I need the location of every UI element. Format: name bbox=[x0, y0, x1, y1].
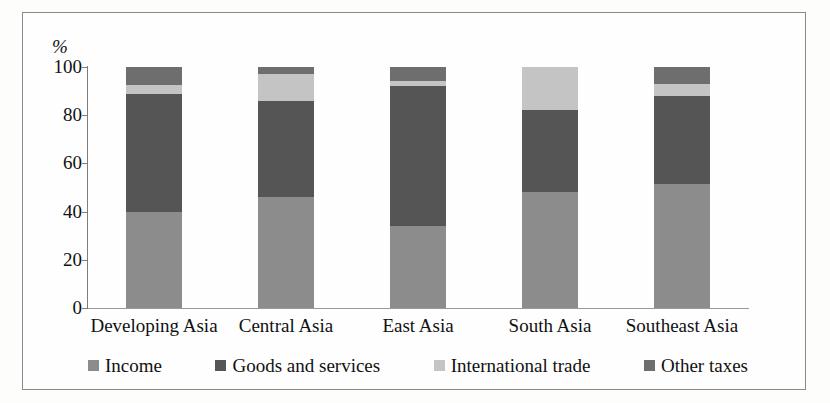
y-tick-label: 100 bbox=[22, 57, 82, 76]
chart-figure: % 100806040200 Developing AsiaCentral As… bbox=[0, 0, 830, 403]
y-tick-label-text: 100 bbox=[38, 57, 82, 76]
legend-item[interactable]: Goods and services bbox=[215, 355, 380, 376]
y-tick-label: 40 bbox=[22, 202, 82, 221]
bar-segment[interactable] bbox=[654, 84, 710, 96]
bar-segment[interactable] bbox=[522, 192, 578, 308]
bar-segment[interactable] bbox=[390, 226, 446, 308]
y-tick-label: 60 bbox=[22, 153, 82, 172]
legend-item-label: Other taxes bbox=[661, 355, 748, 376]
bar-group: Central Asia bbox=[220, 67, 352, 308]
y-tick-label-text: 80 bbox=[38, 105, 82, 124]
bar-group: South Asia bbox=[484, 67, 616, 308]
legend-item[interactable]: Other taxes bbox=[644, 355, 748, 376]
bar-segment[interactable] bbox=[390, 86, 446, 226]
bar-group: Southeast Asia bbox=[616, 67, 748, 308]
y-tick-label-text: 40 bbox=[38, 202, 82, 221]
stacked-bar[interactable] bbox=[390, 67, 446, 308]
bar-segment[interactable] bbox=[654, 96, 710, 184]
bar-segment[interactable] bbox=[258, 197, 314, 308]
y-tick-mark bbox=[82, 308, 88, 309]
y-tick-label-text: 60 bbox=[38, 153, 82, 172]
bar-segment[interactable] bbox=[654, 67, 710, 84]
legend-item[interactable]: International trade bbox=[434, 355, 591, 376]
bar-group: East Asia bbox=[352, 67, 484, 308]
bar-segment[interactable] bbox=[126, 94, 182, 212]
legend-item-label: Income bbox=[105, 355, 162, 376]
y-axis-unit-label: % bbox=[52, 36, 68, 58]
y-tick-label: 20 bbox=[22, 250, 82, 269]
y-tick-label-text: 20 bbox=[38, 250, 82, 269]
bar-segment[interactable] bbox=[126, 67, 182, 85]
x-axis-line bbox=[87, 308, 749, 309]
bar-segment[interactable] bbox=[390, 67, 446, 81]
stacked-bar[interactable] bbox=[258, 67, 314, 308]
y-tick-label: 80 bbox=[22, 105, 82, 124]
legend-item-label: Goods and services bbox=[232, 355, 380, 376]
legend-item[interactable]: Income bbox=[88, 355, 162, 376]
legend-swatch-icon bbox=[644, 360, 655, 371]
legend-swatch-icon bbox=[88, 360, 99, 371]
bar-group: Developing Asia bbox=[88, 67, 220, 308]
chart-legend: IncomeGoods and servicesInternational tr… bbox=[88, 352, 748, 378]
bar-segment[interactable] bbox=[522, 110, 578, 192]
stacked-bar[interactable] bbox=[654, 67, 710, 308]
stacked-bar[interactable] bbox=[126, 67, 182, 308]
bar-segment[interactable] bbox=[522, 67, 578, 110]
bar-segment[interactable] bbox=[258, 74, 314, 101]
bar-segment[interactable] bbox=[258, 67, 314, 74]
bar-segment[interactable] bbox=[654, 184, 710, 308]
bar-segment[interactable] bbox=[126, 212, 182, 308]
plot-area: Developing AsiaCentral AsiaEast AsiaSout… bbox=[88, 67, 748, 308]
bar-segment[interactable] bbox=[258, 101, 314, 197]
x-axis-category-label: Southeast Asia bbox=[592, 315, 772, 337]
legend-item-label: International trade bbox=[451, 355, 591, 376]
stacked-bar[interactable] bbox=[522, 67, 578, 308]
legend-swatch-icon bbox=[215, 360, 226, 371]
bar-segment[interactable] bbox=[126, 85, 182, 93]
legend-swatch-icon bbox=[434, 360, 445, 371]
